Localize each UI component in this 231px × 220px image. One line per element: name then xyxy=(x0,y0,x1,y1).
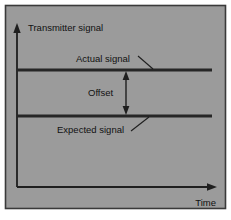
x-axis-label: Time xyxy=(195,197,216,208)
diagram-panel xyxy=(6,6,226,209)
transmitter-signal-offset-diagram: Transmitter signal Time Actual signal Ex… xyxy=(0,0,231,220)
actual-signal-label: Actual signal xyxy=(76,53,130,64)
expected-signal-label: Expected signal xyxy=(57,124,124,135)
y-axis-label: Transmitter signal xyxy=(28,22,103,33)
offset-label: Offset xyxy=(88,87,114,98)
figure-container: Transmitter signal Time Actual signal Ex… xyxy=(0,0,231,220)
